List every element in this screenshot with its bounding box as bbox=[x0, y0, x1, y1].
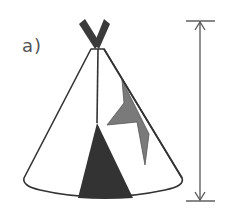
tipi-pole-right bbox=[94, 19, 110, 49]
tipi-figure: a) bbox=[0, 0, 231, 213]
height-arrow bbox=[186, 21, 215, 201]
tipi-seam-line bbox=[97, 49, 98, 123]
tipi-drawing bbox=[0, 0, 231, 213]
